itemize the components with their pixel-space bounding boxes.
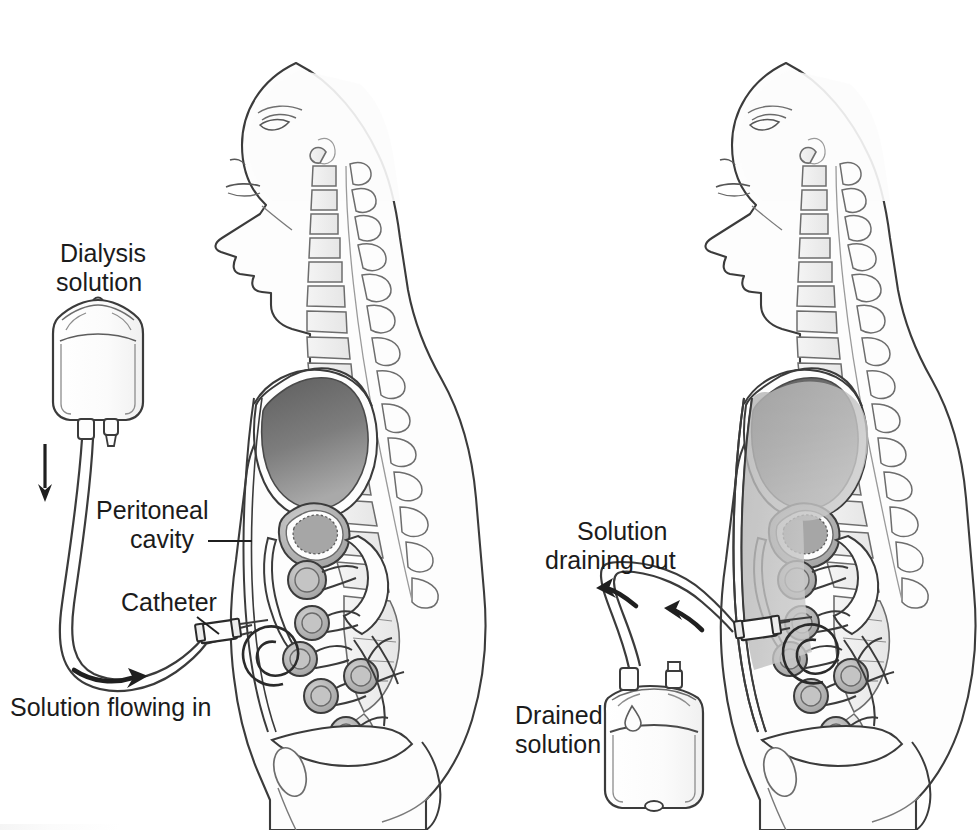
inflow-tubing: [60, 439, 206, 691]
peritoneal-dialysis-figure: Dialysis solution Peritoneal cavity Cath…: [0, 0, 979, 830]
label-dialysis-solution: Dialysis solution: [56, 239, 153, 296]
left-panel-fill-phase: Dialysis solution Peritoneal cavity Cath…: [10, 63, 486, 830]
label-solution-draining-out: Solution draining out: [545, 517, 676, 574]
drained-bag: [605, 662, 703, 811]
illustration-canvas: Dialysis solution Peritoneal cavity Cath…: [0, 0, 979, 830]
label-catheter: Catheter: [121, 588, 217, 616]
right-panel-drain-phase: Solution draining out Drained solution: [515, 63, 976, 830]
label-peritoneal-cavity: Peritoneal cavity: [96, 496, 216, 553]
page-edge-artifact: [0, 824, 120, 830]
dialysis-bag: [53, 298, 143, 447]
label-drained-solution: Drained solution: [515, 701, 610, 758]
label-solution-flowing-in: Solution flowing in: [10, 693, 212, 721]
inflow-down-arrow: [38, 444, 52, 502]
outflow-tube-arrow: [664, 600, 702, 630]
patient-body-left: [215, 63, 485, 830]
